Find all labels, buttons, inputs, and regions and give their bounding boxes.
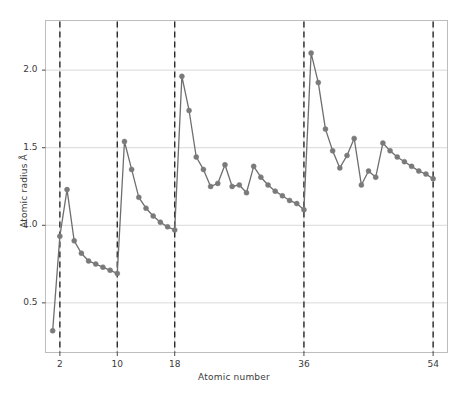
data-point [273,189,278,194]
data-point [423,172,428,177]
data-point [337,165,342,170]
data-point [86,258,91,263]
data-point [165,224,170,229]
data-point [100,265,105,270]
tick-marks [42,70,433,356]
ytick-label-1.5: 1.5 [8,142,38,152]
data-point [309,51,314,56]
data-point [187,108,192,113]
data-point [287,198,292,203]
xtick-label-54: 54 [418,359,448,369]
data-point [380,141,385,146]
data-point [266,182,271,187]
data-point [244,190,249,195]
data-point [258,175,263,180]
gridlines [46,21,448,353]
data-point [57,234,62,239]
data-point [409,164,414,169]
data-point [201,167,206,172]
xtick-label-10: 10 [102,359,132,369]
data-point [208,184,213,189]
data-point [115,271,120,276]
data-point [388,148,393,153]
ytick-label-2.0: 2.0 [8,64,38,74]
data-point [323,127,328,132]
data-point [194,155,199,160]
data-point [122,139,127,144]
data-point [373,175,378,180]
data-point [366,168,371,173]
atomic-radius-line-chart [0,0,468,395]
data-point [402,159,407,164]
data-point [330,148,335,153]
xtick-label-2: 2 [45,359,75,369]
x-axis-label: Atomic number [0,372,468,382]
data-point [108,268,113,273]
data-point [237,182,242,187]
data-point [316,80,321,85]
data-point [50,328,55,333]
data-point [301,207,306,212]
data-point [359,182,364,187]
data-point [158,220,163,225]
data-point [215,181,220,186]
data-point [93,262,98,267]
data-point [179,74,184,79]
data-point [172,227,177,232]
ytick-label-1.0: 1.0 [8,219,38,229]
data-point [136,195,141,200]
data-point [151,213,156,218]
data-point [129,167,134,172]
data-markers [50,51,435,334]
data-point [395,155,400,160]
chart-figure: Atomic number Atomic radius Å 2101836540… [0,0,468,395]
data-point [345,153,350,158]
data-point [72,238,77,243]
data-point [431,176,436,181]
data-point [416,168,421,173]
xtick-label-36: 36 [289,359,319,369]
data-point [65,187,70,192]
data-point [352,136,357,141]
data-point [222,162,227,167]
data-point [230,184,235,189]
data-point [251,164,256,169]
ytick-label-0.5: 0.5 [8,297,38,307]
data-point [144,206,149,211]
xtick-label-18: 18 [160,359,190,369]
data-point [79,251,84,256]
data-line [53,53,433,331]
data-point [294,201,299,206]
data-point [280,193,285,198]
